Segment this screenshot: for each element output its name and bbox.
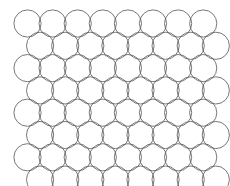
- diagram-canvas: [0, 0, 230, 186]
- circle-packing-svg: [0, 0, 230, 186]
